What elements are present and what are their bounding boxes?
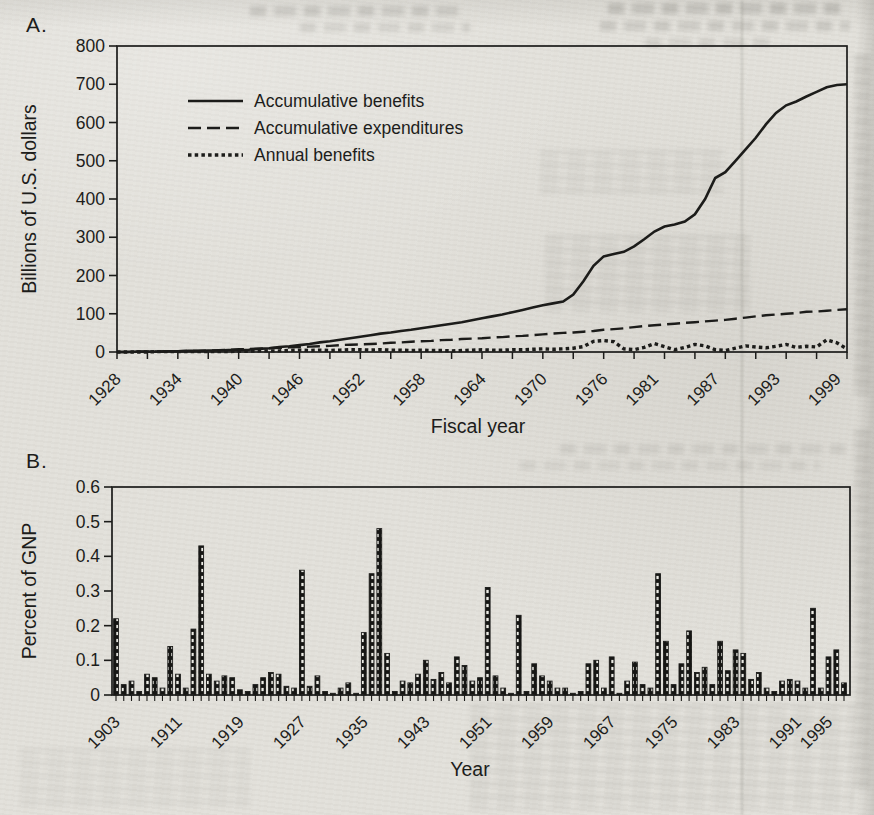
tick-label: 1943	[393, 712, 433, 752]
bar	[377, 529, 382, 695]
bar	[439, 673, 444, 696]
bar	[261, 678, 266, 695]
tick-label: 0.5	[76, 512, 100, 532]
tick-label: 1934	[145, 369, 185, 409]
bar	[679, 664, 684, 695]
bar	[222, 676, 227, 695]
tick-label: 0.3	[76, 581, 100, 601]
bar	[826, 657, 831, 695]
bar	[501, 688, 506, 695]
series-dashed	[117, 309, 847, 352]
tick-label: 1991	[765, 712, 805, 752]
legend-label: Accumulative expenditures	[254, 118, 463, 138]
bar	[671, 685, 676, 695]
bar	[780, 681, 785, 695]
bar	[725, 671, 730, 695]
bar	[485, 588, 490, 696]
y-axis-title: Billions of U.S. dollars	[18, 104, 40, 294]
bar	[346, 683, 351, 695]
tick-label: 200	[76, 266, 105, 286]
bar	[284, 686, 289, 695]
bar	[787, 679, 792, 695]
x-axis-title: Year	[450, 758, 490, 780]
tick-label: 600	[76, 113, 105, 133]
tick-label: 300	[76, 227, 105, 247]
bar	[238, 690, 243, 695]
bar	[609, 657, 614, 695]
bar	[199, 546, 204, 695]
panel-a-letter: A.	[26, 13, 48, 37]
panel-a-frame	[117, 46, 847, 352]
tick-label: 1919	[208, 712, 248, 752]
bar	[114, 619, 119, 695]
tick-label: 1976	[571, 369, 611, 409]
bar	[331, 693, 336, 695]
bar	[687, 631, 692, 695]
tick-label: 1935	[331, 712, 371, 752]
bar	[121, 685, 126, 695]
bar	[633, 662, 638, 695]
y-axis-title: Percent of GNP	[18, 523, 40, 660]
bar	[702, 667, 707, 695]
bar	[323, 692, 328, 696]
bar	[718, 641, 723, 695]
bar	[307, 686, 312, 695]
bar	[795, 681, 800, 695]
tick-label: 1964	[450, 369, 490, 409]
bar	[145, 674, 150, 695]
bar	[191, 629, 196, 695]
tick-label: 1928	[85, 369, 125, 409]
tick-label: 1993	[744, 369, 784, 409]
bar	[555, 688, 560, 695]
tick-label: 0.1	[76, 650, 100, 670]
tick-label: 1946	[267, 369, 307, 409]
bar	[733, 650, 738, 695]
bar	[160, 688, 165, 695]
bar	[710, 685, 715, 695]
bar	[207, 674, 212, 695]
tick-label: 1995	[796, 712, 836, 752]
series-solid	[117, 84, 847, 352]
bar	[400, 681, 405, 695]
tick-label: 0.6	[76, 477, 100, 497]
tick-label: 0.2	[76, 616, 100, 636]
bar	[493, 676, 498, 695]
bar	[578, 692, 583, 696]
panel-b-frame	[112, 487, 850, 695]
bar	[547, 681, 552, 695]
bar	[338, 688, 343, 695]
series-dotted	[117, 340, 847, 352]
tick-label: 1903	[84, 712, 124, 752]
tick-label: 1999	[805, 369, 845, 409]
bar	[292, 688, 297, 695]
bar	[269, 673, 274, 696]
bar	[253, 685, 258, 695]
bar	[276, 674, 281, 695]
bar	[152, 678, 157, 695]
bar	[416, 674, 421, 695]
tick-label: 0	[95, 342, 105, 362]
tick-label: 1940	[206, 369, 246, 409]
panel-b-letter: B.	[26, 449, 48, 473]
legend-label: Accumulative benefits	[254, 91, 424, 111]
bar	[129, 681, 134, 695]
bar	[625, 681, 630, 695]
bar	[168, 647, 173, 696]
bar	[454, 657, 459, 695]
bar	[640, 685, 645, 695]
bar	[664, 641, 669, 695]
bar	[176, 674, 181, 695]
tick-label: 1970	[510, 369, 550, 409]
bar	[516, 615, 521, 695]
bar	[586, 664, 591, 695]
tick-label: 1975	[641, 712, 681, 752]
bar	[361, 633, 366, 695]
tick-label: 400	[76, 189, 105, 209]
bar	[749, 679, 754, 695]
bar	[354, 693, 359, 695]
bar	[803, 688, 808, 695]
bar	[315, 676, 320, 695]
bar	[741, 653, 746, 695]
tick-label: 500	[76, 151, 105, 171]
x-axis-title: Fiscal year	[431, 415, 526, 437]
